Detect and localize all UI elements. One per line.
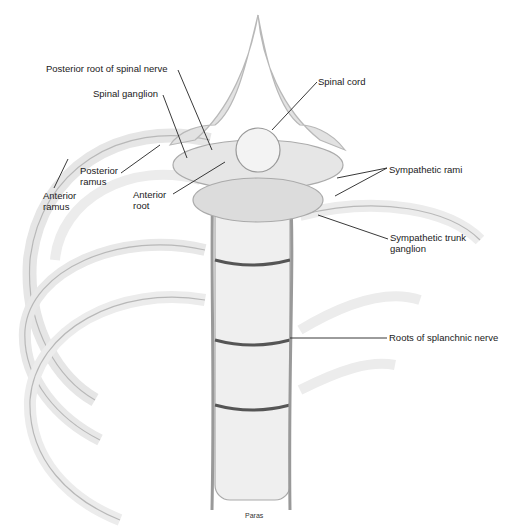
label-anterior-root-line2: root bbox=[133, 200, 149, 211]
label-sympathetic-trunk-ganglion: Sympathetic trunk bbox=[390, 232, 466, 243]
artist-credit: Paras bbox=[245, 512, 263, 519]
label-sympathetic-trunk-ganglion-line2: ganglion bbox=[390, 243, 426, 254]
label-anterior-root: Anterior bbox=[133, 189, 166, 200]
label-spinal-ganglion: Spinal ganglion bbox=[93, 88, 158, 99]
label-roots-splanchnic-nerve: Roots of splanchnic nerve bbox=[389, 332, 498, 343]
label-posterior-ramus: Posterior bbox=[80, 165, 118, 176]
label-anterior-ramus: Anterior bbox=[43, 190, 76, 201]
label-spinal-cord: Spinal cord bbox=[318, 76, 366, 87]
label-anterior-ramus-line2: ramus bbox=[43, 201, 69, 212]
label-posterior-root: Posterior root of spinal nerve bbox=[46, 63, 167, 74]
anatomy-diagram: Posterior root of spinal nerve Spinal ga… bbox=[0, 0, 514, 531]
label-sympathetic-rami: Sympathetic rami bbox=[389, 164, 462, 175]
label-posterior-ramus-line2: ramus bbox=[80, 176, 106, 187]
illustration bbox=[0, 0, 514, 531]
